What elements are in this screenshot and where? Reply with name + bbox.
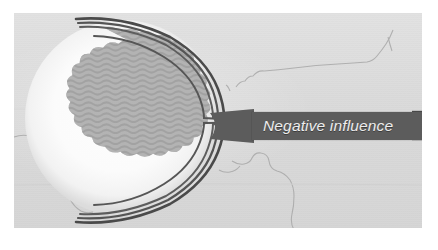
scanned-plate: Negative influence xyxy=(14,13,422,228)
connector-wedge xyxy=(210,109,254,143)
figure-canvas: Negative influence xyxy=(0,0,438,250)
negative-influence-label-text: Negative influence xyxy=(263,117,393,135)
negative-influence-label: Negative influence xyxy=(252,112,422,140)
